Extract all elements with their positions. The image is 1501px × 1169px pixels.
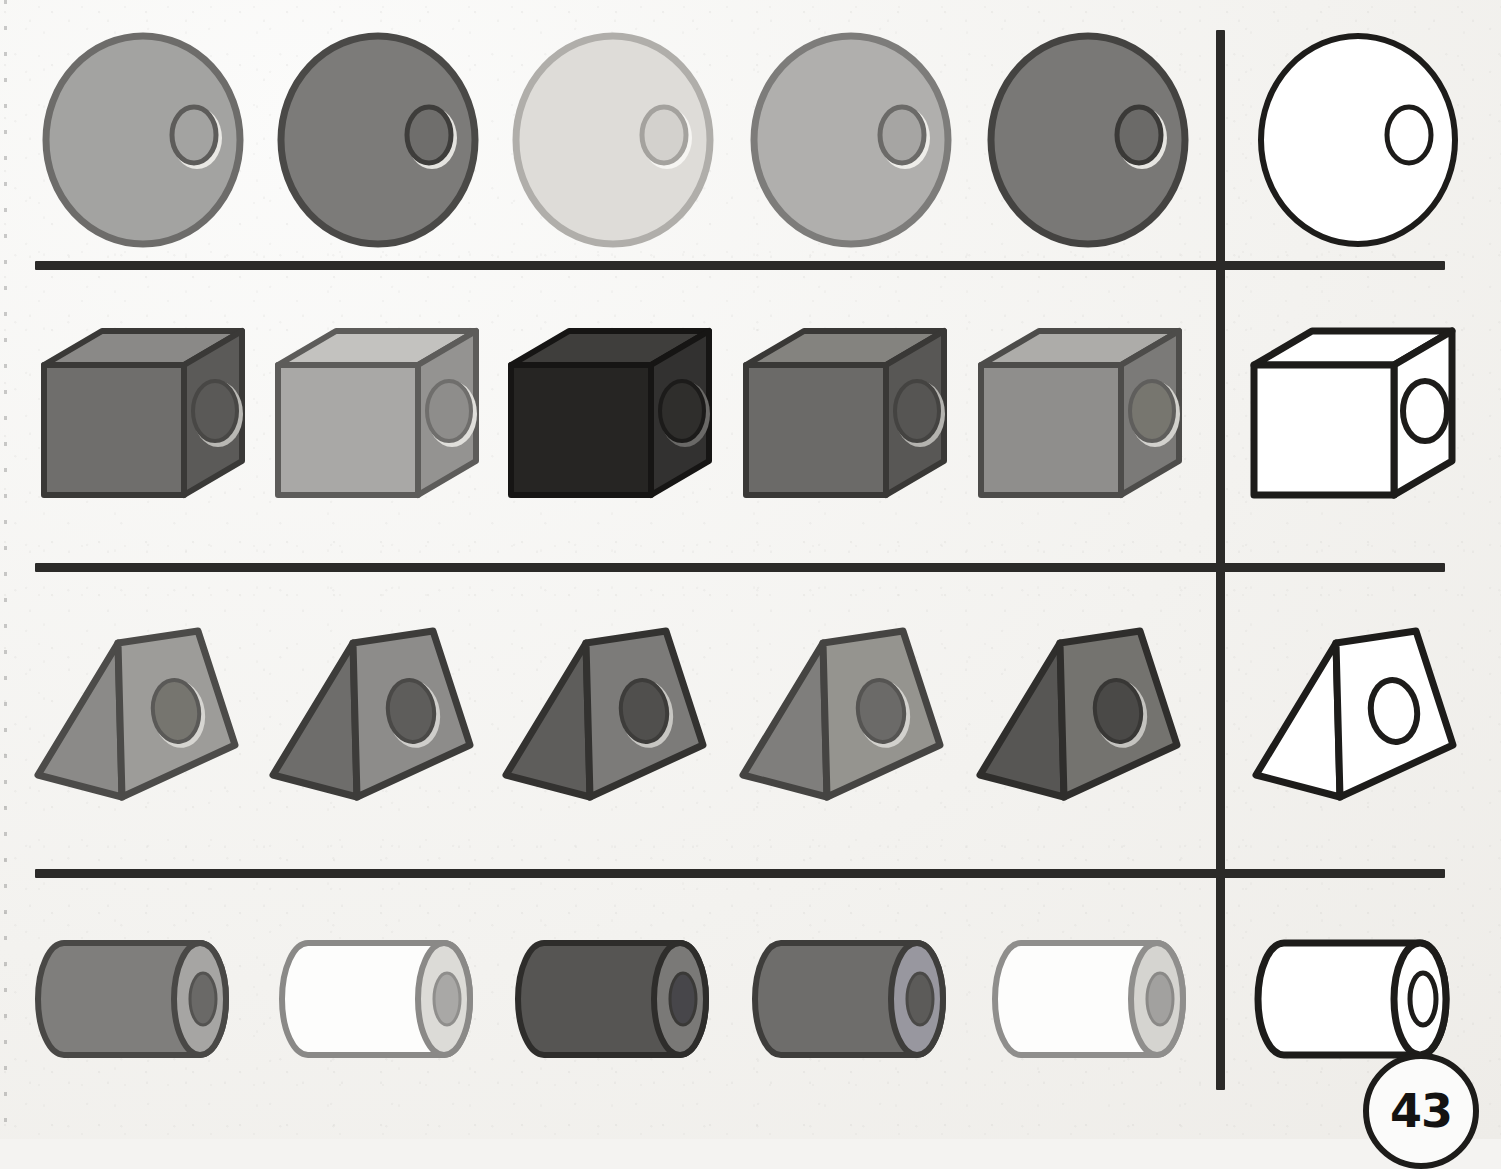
prism-outline-answer[interactable] [1248,625,1483,810]
row-spheres [0,30,1501,255]
cube-2 [272,325,487,505]
sphere-outline-answer[interactable] [1255,30,1465,250]
row-cubes [0,325,1501,510]
cube-outline-answer[interactable] [1248,325,1463,505]
cylinder-outline-answer[interactable] [1248,935,1463,1065]
cube-glyph [272,325,487,505]
sphere-4 [748,30,958,250]
prism-2 [265,625,500,810]
cube-glyph [505,325,720,505]
divider-row-1-2 [35,261,1445,270]
prism-4 [735,625,970,810]
cylinder-glyph [508,935,723,1065]
divider-row-3-4 [35,869,1445,878]
cylinder-glyph [28,935,243,1065]
page-number-badge: 43 [1363,1053,1479,1169]
sphere-glyph [748,30,958,250]
sphere-5 [985,30,1195,250]
triangular-prism-glyph [265,625,500,810]
triangular-prism-glyph [1248,625,1483,810]
cylinder-5 [985,935,1200,1065]
sphere-2 [275,30,485,250]
cylinder-2 [272,935,487,1065]
cylinder-glyph [1248,935,1463,1065]
row-prisms [0,625,1501,815]
cylinder-1 [28,935,243,1065]
prism-1 [30,625,265,810]
cube-glyph [975,325,1190,505]
prism-3 [498,625,733,810]
triangular-prism-glyph [498,625,733,810]
cylinder-glyph [272,935,487,1065]
sphere-glyph [985,30,1195,250]
cube-glyph [740,325,955,505]
cylinder-glyph [745,935,960,1065]
triangular-prism-glyph [972,625,1207,810]
cube-3 [505,325,720,505]
row-cylinders [0,935,1501,1065]
sphere-glyph [275,30,485,250]
cube-4 [740,325,955,505]
prism-5 [972,625,1207,810]
triangular-prism-glyph [30,625,265,810]
sphere-3 [510,30,720,250]
cube-glyph [1248,325,1463,505]
sphere-1 [40,30,250,250]
divider-row-2-3 [35,563,1445,572]
sphere-glyph [1255,30,1465,250]
cube-glyph [38,325,253,505]
cube-5 [975,325,1190,505]
sphere-glyph [510,30,720,250]
sphere-glyph [40,30,250,250]
cylinder-4 [745,935,960,1065]
triangular-prism-glyph [735,625,970,810]
cylinder-glyph [985,935,1200,1065]
cylinder-3 [508,935,723,1065]
cube-1 [38,325,253,505]
